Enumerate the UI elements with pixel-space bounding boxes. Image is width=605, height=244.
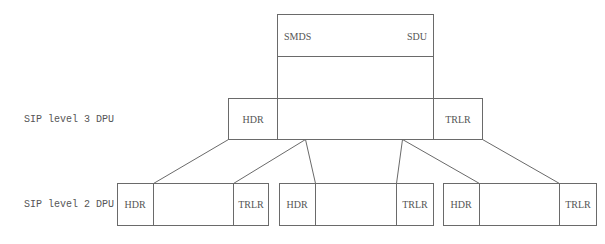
segmentation-connector-lines bbox=[154, 140, 560, 184]
level2-row-label: SIP level 2 DPU bbox=[24, 199, 114, 210]
level3-row-label: SIP level 3 DPU bbox=[24, 114, 114, 125]
level2-dpu-segment-1: HDR TRLR bbox=[118, 184, 269, 226]
level2-seg1-hdr-label: HDR bbox=[124, 199, 145, 210]
smds-label: SMDS bbox=[284, 31, 311, 42]
level2-seg2-hdr-label: HDR bbox=[286, 199, 307, 210]
sdu-label: SDU bbox=[407, 31, 428, 42]
level2-dpu-segment-2: HDR TRLR bbox=[280, 184, 434, 226]
level3-hdr-label: HDR bbox=[242, 114, 263, 125]
level2-seg2-trlr-label: TRLR bbox=[402, 199, 428, 210]
level2-seg3-trlr-label: TRLR bbox=[565, 199, 591, 210]
level2-seg3-hdr-label: HDR bbox=[450, 199, 471, 210]
level3-dpu: HDR TRLR bbox=[229, 99, 483, 140]
level3-trlr-label: TRLR bbox=[445, 114, 471, 125]
smds-sdu-box: SMDS SDU bbox=[278, 15, 434, 99]
level2-seg1-trlr-label: TRLR bbox=[238, 199, 264, 210]
level2-dpu-segment-3: HDR TRLR bbox=[444, 184, 597, 226]
sip-encapsulation-diagram: SMDS SDU SIP level 3 DPU HDR TRLR SIP le… bbox=[0, 0, 605, 244]
